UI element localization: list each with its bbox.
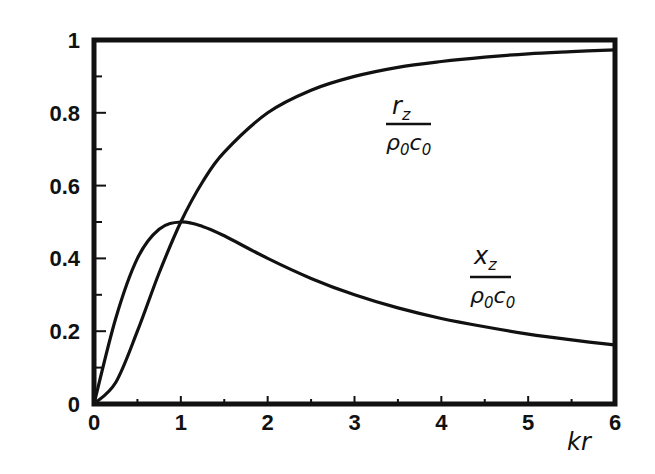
x-axis-title: kr — [567, 428, 593, 456]
y-tick-label: 1 — [68, 28, 80, 53]
y-tick-label: 0.8 — [49, 101, 80, 126]
xz-curve — [94, 222, 615, 404]
svg-text:xz: xz — [473, 242, 497, 274]
x-tick-label: 1 — [175, 410, 187, 435]
rz-label: rz ρ0c0 — [386, 92, 431, 159]
rz-curve — [94, 50, 615, 404]
x-tick-label: 0 — [88, 410, 100, 435]
svg-text:rz: rz — [392, 92, 411, 124]
y-tick-label: 0.4 — [49, 246, 80, 271]
svg-text:ρ0c0: ρ0c0 — [386, 130, 431, 159]
y-tick-label: 0.2 — [49, 319, 80, 344]
y-tick-label: 0.6 — [49, 174, 80, 199]
y-tick-label: 0 — [68, 392, 80, 417]
x-tick-label: 6 — [609, 410, 621, 435]
impedance-chart: 0123456 00.20.40.60.81 kr rz ρ0c0 xz ρ0c… — [0, 0, 655, 474]
svg-text:ρ0c0: ρ0c0 — [470, 283, 515, 312]
x-tick-label: 3 — [348, 410, 360, 435]
x-tick-labels: 0123456 — [88, 410, 621, 435]
x-tick-label: 5 — [522, 410, 534, 435]
y-tick-labels: 00.20.40.60.81 — [49, 28, 80, 417]
x-tick-label: 2 — [262, 410, 274, 435]
x-tick-label: 4 — [435, 410, 448, 435]
curves — [94, 50, 615, 404]
xz-label: xz ρ0c0 — [470, 242, 515, 312]
